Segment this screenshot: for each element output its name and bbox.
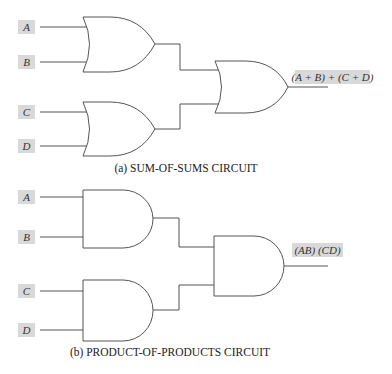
logic-circuit-diagram: A B C D (A + B) + (C +	[0, 0, 392, 374]
and-gate-icon	[214, 236, 284, 296]
svg-text:(AB) (CD): (AB) (CD)	[294, 244, 340, 257]
svg-text:B: B	[23, 56, 30, 68]
caption-sum-of-sums: (a) SUM-OF-SUMS CIRCUIT	[114, 162, 257, 175]
input-label-a: A	[18, 190, 35, 204]
wire-or1-out	[155, 44, 221, 70]
svg-text:C: C	[23, 106, 31, 118]
product-of-products-circuit: A B C D (AB) (CD) (b) PRODU	[18, 190, 343, 359]
and-gate-icon	[83, 190, 153, 248]
input-label-b: B	[18, 230, 35, 244]
svg-text:D: D	[22, 140, 31, 152]
svg-text:D: D	[22, 324, 31, 336]
or-gate-icon	[83, 17, 155, 72]
input-label-b: B	[18, 55, 35, 69]
svg-text:C: C	[23, 285, 31, 297]
wire-and1-out	[153, 218, 214, 247]
output-label-product: (AB) (CD)	[292, 243, 343, 257]
input-label-c: C	[18, 105, 35, 119]
svg-text:A: A	[22, 21, 30, 33]
sum-of-sums-circuit: A B C D (A + B) + (C +	[18, 17, 374, 175]
input-label-d: D	[18, 139, 35, 153]
or-gate-icon	[83, 102, 155, 156]
input-label-d: D	[18, 323, 35, 337]
and-gate-icon	[83, 280, 153, 341]
input-label-c: C	[18, 284, 35, 298]
wire-or2-out	[155, 104, 221, 129]
or-gate-icon	[215, 61, 288, 113]
wire-and2-out	[153, 285, 214, 310]
input-label-a: A	[18, 20, 35, 34]
svg-text:(A + B) + (C + D): (A + B) + (C + D)	[292, 71, 374, 84]
caption-product-of-products: (b) PRODUCT-OF-PRODUCTS CIRCUIT	[70, 346, 270, 359]
output-label-sum: (A + B) + (C + D)	[292, 70, 374, 84]
svg-text:B: B	[23, 231, 30, 243]
svg-text:A: A	[22, 191, 30, 203]
